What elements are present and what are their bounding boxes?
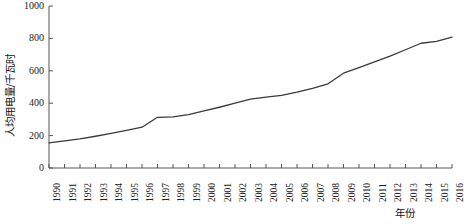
x-tick-label: 2011 bbox=[379, 183, 389, 202]
x-tick-label: 1998 bbox=[177, 183, 187, 202]
data-series-line bbox=[49, 37, 452, 143]
y-axis-ticks bbox=[49, 6, 53, 168]
x-tick-label: 2002 bbox=[239, 183, 249, 202]
x-tick-label: 2008 bbox=[332, 183, 342, 202]
x-axis-ticks bbox=[49, 164, 452, 168]
x-tick-label: 1997 bbox=[162, 183, 172, 202]
x-tick-label: 1990 bbox=[53, 183, 63, 202]
y-tick-label: 1000 bbox=[0, 1, 44, 11]
x-tick-label: 1992 bbox=[84, 183, 94, 202]
x-tick-label: 2015 bbox=[441, 183, 451, 202]
axes-group bbox=[49, 6, 452, 168]
x-tick-label: 2006 bbox=[301, 183, 311, 202]
y-axis-title: 人均用电量/千瓦时 bbox=[2, 46, 17, 146]
x-tick-label: 1991 bbox=[69, 183, 79, 202]
axis-lines bbox=[49, 6, 452, 168]
x-tick-label: 2016 bbox=[456, 183, 466, 202]
x-tick-label: 1999 bbox=[193, 183, 203, 202]
x-tick-label: 2013 bbox=[410, 183, 420, 202]
x-tick-label: 2005 bbox=[286, 183, 296, 202]
x-tick-label: 2009 bbox=[348, 183, 358, 202]
x-tick-label: 2012 bbox=[394, 183, 404, 202]
x-tick-label: 2007 bbox=[317, 183, 327, 202]
x-axis-title: 年份 bbox=[395, 205, 415, 220]
x-tick-label: 2014 bbox=[425, 183, 435, 202]
x-tick-label: 2003 bbox=[255, 183, 265, 202]
x-tick-label: 1994 bbox=[115, 183, 125, 202]
x-tick-label: 1995 bbox=[131, 183, 141, 202]
x-tick-label: 1993 bbox=[100, 183, 110, 202]
x-tick-label: 2001 bbox=[224, 183, 234, 202]
y-tick-label: 800 bbox=[0, 33, 44, 43]
x-tick-label: 1996 bbox=[146, 183, 156, 202]
x-tick-label: 2004 bbox=[270, 183, 280, 202]
x-tick-label: 2000 bbox=[208, 183, 218, 202]
x-tick-label: 2010 bbox=[363, 183, 373, 202]
y-tick-label: 0 bbox=[0, 163, 44, 173]
line-chart: 02004006008001000 1990199119921993199419… bbox=[0, 0, 474, 224]
